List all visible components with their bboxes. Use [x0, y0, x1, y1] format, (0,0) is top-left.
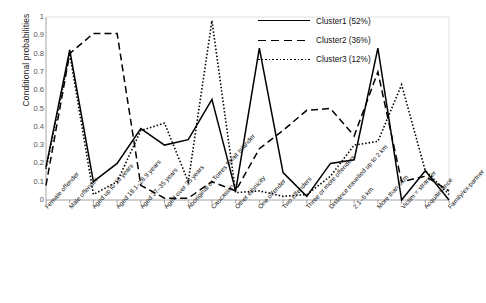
legend-label-cluster3: Cluster3 (12%) [316, 55, 371, 64]
legend-key-solid-icon [258, 20, 310, 23]
legend-item-cluster2: Cluster2 (36%) [258, 31, 418, 50]
legend-label-cluster1: Cluster1 (52%) [316, 17, 371, 26]
legend-key-dotted-icon [258, 59, 310, 61]
legend-item-cluster1: Cluster1 (52%) [258, 12, 418, 31]
chart-legend: Cluster1 (52%) Cluster2 (36%) Cluster3 (… [258, 12, 418, 69]
legend-item-cluster3: Cluster3 (12%) [258, 50, 418, 69]
x-tick-label: Aged up to 18 years [91, 163, 135, 211]
x-tick-label: Family/ex-partner [447, 168, 486, 210]
x-tick-label: 2.1–6 km [352, 186, 375, 210]
legend-label-cluster2: Cluster2 (36%) [316, 36, 371, 45]
legend-key-dashed-icon [258, 40, 310, 42]
x-tick-label: Caucasian [210, 183, 235, 210]
